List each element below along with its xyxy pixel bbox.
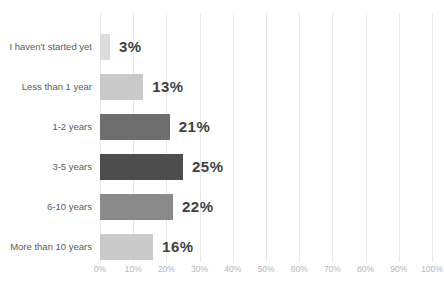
x-tick-label: 30% xyxy=(191,264,208,274)
bar-chart: 3%13%21%25%22%16% I haven't started yetL… xyxy=(0,0,444,293)
bar-row: 22% xyxy=(100,187,432,227)
category-label: 6-10 years xyxy=(47,194,92,220)
bar-row: 13% xyxy=(100,67,432,107)
x-tick-label: 10% xyxy=(125,264,142,274)
bar xyxy=(100,234,153,260)
x-tick-label: 40% xyxy=(224,264,241,274)
category-label: More than 10 years xyxy=(10,234,92,260)
category-label: 1-2 years xyxy=(52,114,92,140)
bar-value-label: 13% xyxy=(143,74,184,100)
category-label: 3-5 years xyxy=(52,154,92,180)
x-tick-label: 80% xyxy=(357,264,374,274)
x-tick-label: 0% xyxy=(94,264,106,274)
bar-value-label: 22% xyxy=(173,194,214,220)
bar-row: 16% xyxy=(100,227,432,267)
category-label: Less than 1 year xyxy=(22,74,92,100)
x-tick-label: 60% xyxy=(291,264,308,274)
bar-row: 21% xyxy=(100,107,432,147)
bar-row: 25% xyxy=(100,147,432,187)
x-tick-label: 90% xyxy=(390,264,407,274)
bar-value-label: 21% xyxy=(170,114,211,140)
x-tick-label: 100% xyxy=(421,264,443,274)
plot-area: 3%13%21%25%22%16% xyxy=(100,13,432,262)
bar xyxy=(100,74,143,100)
bar xyxy=(100,114,170,140)
bar xyxy=(100,154,183,180)
bar-row: 3% xyxy=(100,27,432,67)
category-axis: I haven't started yetLess than 1 year1-2… xyxy=(0,13,100,262)
bar-value-label: 16% xyxy=(153,234,194,260)
x-axis-ticks: 0%10%20%30%40%50%60%70%80%90%100% xyxy=(100,264,432,280)
bar-value-label: 25% xyxy=(183,154,224,180)
x-tick-label: 50% xyxy=(257,264,274,274)
x-tick-label: 70% xyxy=(324,264,341,274)
gridline xyxy=(432,13,433,262)
x-tick-label: 20% xyxy=(158,264,175,274)
bar xyxy=(100,194,173,220)
bar xyxy=(100,34,110,60)
bar-value-label: 3% xyxy=(110,34,142,60)
category-label: I haven't started yet xyxy=(9,34,92,60)
